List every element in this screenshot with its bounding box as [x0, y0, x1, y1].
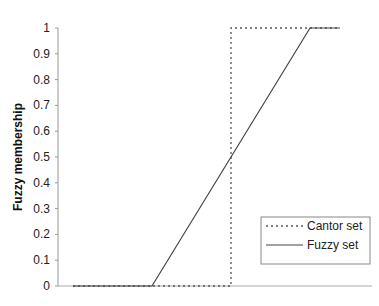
legend-fuzzy-label: Fuzzy set: [307, 238, 359, 252]
y-tick-label: 0.8: [33, 73, 50, 87]
legend: Cantor set Fuzzy set: [261, 217, 370, 264]
y-tick-label: 0.9: [33, 47, 50, 61]
y-tick-label: 0.1: [33, 253, 50, 267]
y-tick-label: 1: [43, 21, 50, 35]
y-tick-label: 0.6: [33, 124, 50, 138]
chart-canvas: 0 0.1 0.2 0.3 0.4 0.5 0.6 0.7 0.8 0.9 1 …: [0, 0, 379, 306]
y-tick-label: 0.3: [33, 202, 50, 216]
y-axis-title: Fuzzy membership: [11, 103, 25, 211]
y-tick-label: 0.7: [33, 98, 50, 112]
y-tick-label: 0.2: [33, 227, 50, 241]
y-tick-label: 0: [43, 279, 50, 293]
y-tick-label: 0.5: [33, 150, 50, 164]
y-tick-label: 0.4: [33, 176, 50, 190]
legend-cantor-label: Cantor set: [307, 219, 363, 233]
